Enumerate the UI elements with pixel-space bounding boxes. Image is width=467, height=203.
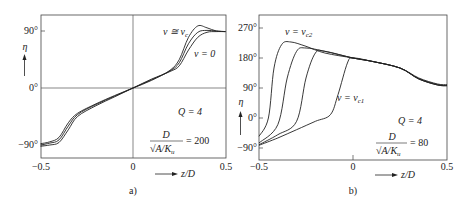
panel-b: 270° 180° 90° 0° −90° −0.5 0 0.5 η z/D v… [237, 15, 453, 197]
panel-a-caption: a) [129, 185, 137, 197]
panel-b-ytick-180: 180° [238, 52, 257, 63]
panel-b-ytick-0: 0° [248, 112, 257, 123]
up-arrow-icon [23, 54, 27, 76]
panel-a-param-numerator: D [161, 129, 170, 140]
panel-b-param-q: Q = 4 [398, 115, 422, 126]
panel-b-ytick-270: 270° [238, 22, 257, 33]
right-arrow-icon [375, 173, 398, 177]
panel-a-param-q: Q = 4 [178, 106, 202, 117]
panel-a-xlabel: z/D [180, 168, 196, 179]
panel-a-ytick-0: 0° [29, 82, 38, 93]
panel-b-xtick-05: 0.5 [441, 161, 454, 172]
panel-b-label-v-vc1: v = vc1 [337, 92, 364, 105]
panel-b-ylabel: η [239, 96, 244, 107]
panel-a-label-v0: v = 0 [194, 48, 215, 59]
panel-b-caption: b) [349, 185, 357, 197]
panel-a-ytick-neg90: −90° [18, 139, 38, 150]
up-arrow-icon [239, 111, 243, 135]
panel-a-xtick-0: 0 [131, 161, 136, 172]
panel-b-param-denominator: √A/Ku [376, 145, 401, 158]
panel-a-xtick-neg05: −0.5 [32, 161, 50, 172]
panel-b-param-value: = 80 [410, 137, 428, 148]
figure: 90° 0° −90° −0.5 0 0.5 η z/D v ≅ vc v = … [0, 0, 467, 203]
panel-a-ytick-90: 90° [24, 25, 38, 36]
panel-b-ytick-neg90: −90° [237, 142, 257, 153]
panel-b-xtick-neg05: −0.5 [250, 161, 268, 172]
panel-b-ytick-90: 90° [243, 82, 257, 93]
panel-a-xtick-05: 0.5 [220, 161, 233, 172]
panel-b-xtick-0: 0 [351, 161, 356, 172]
panel-a-param-value: = 200 [186, 135, 209, 146]
panel-a-label-v-vc: v ≅ vc [163, 26, 189, 39]
panel-a-param-denominator: √A/Ku [150, 143, 175, 156]
right-arrow-icon [155, 172, 178, 176]
panel-a-ylabel: η [23, 41, 28, 52]
panel-a: 90° 0° −90° −0.5 0 0.5 η z/D v ≅ vc v = … [18, 15, 232, 197]
panel-b-param-numerator: D [387, 131, 396, 142]
panel-b-xlabel: z/D [400, 169, 416, 180]
panel-b-label-v-vc2: v = vc2 [285, 26, 313, 39]
